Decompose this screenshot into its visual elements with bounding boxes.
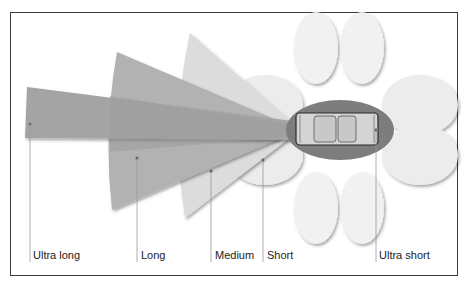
car-icon xyxy=(296,113,378,145)
label-long: Long xyxy=(141,249,165,261)
label-short: Short xyxy=(267,249,293,261)
label-medium: Medium xyxy=(215,249,254,261)
label-ultra-short: Ultra short xyxy=(379,249,430,261)
label-ultra-long: Ultra long xyxy=(33,249,80,261)
sensor-range-diagram xyxy=(0,0,470,289)
